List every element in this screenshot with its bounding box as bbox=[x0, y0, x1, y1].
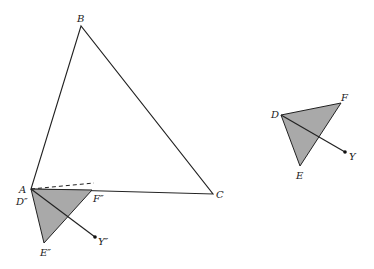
label-d2: D″ bbox=[15, 196, 28, 207]
triangle-def bbox=[281, 103, 341, 166]
triangle-abc bbox=[31, 26, 213, 194]
label-b: B bbox=[76, 13, 84, 24]
triangle-d2e2f2 bbox=[31, 189, 92, 243]
label-f2: F″ bbox=[92, 193, 104, 204]
geometry-figure: B A C D″ F″ E″ Y″ D F E Y bbox=[0, 0, 374, 269]
point-y2 bbox=[93, 235, 97, 239]
label-y2: Y″ bbox=[98, 236, 109, 247]
label-e: E bbox=[295, 170, 304, 181]
label-y: Y bbox=[349, 151, 357, 162]
label-a: A bbox=[18, 184, 26, 195]
point-y bbox=[343, 150, 347, 154]
label-d: D bbox=[270, 109, 279, 120]
label-c: C bbox=[216, 189, 224, 200]
label-e2: E″ bbox=[39, 247, 51, 258]
dashed-line bbox=[31, 183, 94, 189]
label-f: F bbox=[340, 92, 349, 103]
